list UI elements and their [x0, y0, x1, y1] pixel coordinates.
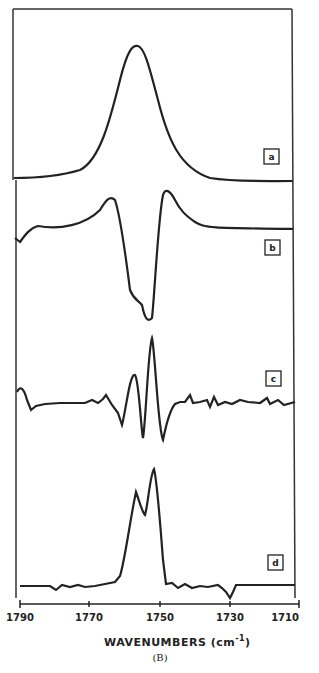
trace-a-label: a: [268, 152, 274, 162]
x-tick-1710: 1710: [271, 612, 299, 623]
trace-b-label: b: [269, 243, 276, 253]
trace-d-label: d: [272, 558, 278, 568]
trace-c-label-box: c: [266, 371, 281, 386]
trace-d-label-box: d: [268, 555, 283, 570]
x-axis-title-close: ): [245, 636, 251, 649]
x-axis-title-main: WAVENUMBERS (cm: [104, 636, 235, 649]
x-axis-title: WAVENUMBERS (cm-1): [104, 634, 251, 649]
x-tick-1770: 1770: [75, 612, 103, 623]
trace-b-curve: [15, 191, 293, 320]
x-axis: 1790 1770 1750 1730 1710: [6, 600, 299, 623]
x-tick-1750: 1750: [146, 612, 174, 623]
svg-text:WAVENUMBERS (cm-1): WAVENUMBERS (cm-1): [104, 634, 251, 649]
figure-caption: (B): [152, 652, 167, 663]
ir-spectra-figure: a b c d 1790 1770 1750 1730 1710 WAVENUM…: [0, 0, 319, 673]
x-tick-1790: 1790: [6, 612, 34, 623]
trace-b-label-box: b: [265, 240, 280, 255]
x-tick-1730: 1730: [216, 612, 244, 623]
trace-a-label-box: a: [264, 149, 279, 164]
trace-a-curve: [14, 46, 293, 181]
x-axis-title-sup: -1: [235, 634, 245, 643]
trace-c-curve: [17, 338, 295, 440]
trace-d-curve: [20, 469, 295, 598]
trace-c-label: c: [271, 374, 276, 384]
